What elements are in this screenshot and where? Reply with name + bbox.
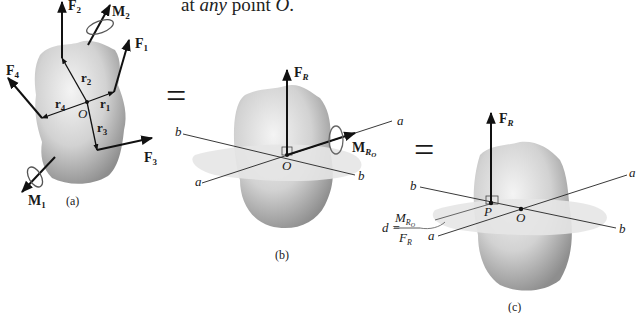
f1-label: F1	[135, 36, 149, 53]
equals-sign-2: =	[414, 130, 434, 170]
axis-a-label-b-right: a	[397, 113, 404, 128]
point-o-label-b: O	[282, 158, 292, 173]
formula-denominator: FR	[398, 230, 412, 247]
axis-b-label-b-right: b	[358, 168, 365, 183]
axis-a-label-c-right: a	[629, 165, 636, 180]
fr-label-b: FR	[294, 65, 309, 82]
axis-b-label-b-left: b	[175, 124, 182, 139]
panel-a: F1 F2 F3 F4 r1 r2 r3 r4 M2 M1 O (a)	[6, 0, 158, 210]
m1-label: M1	[28, 193, 46, 210]
axis-a-label-c-left: a	[428, 228, 435, 243]
plane-b	[192, 145, 361, 181]
f2-label: F2	[68, 0, 82, 15]
point-o-label-c: O	[516, 210, 526, 225]
fr-label-c: FR	[499, 111, 514, 128]
axis-a-label-b-left: a	[195, 174, 202, 189]
axis-b-label-c-left: b	[410, 178, 417, 193]
m2-moment-icon	[85, 5, 115, 45]
caption-a: (a)	[66, 194, 79, 208]
caption-b: (b)	[275, 248, 289, 262]
m2-label: M2	[112, 4, 130, 21]
point-o-label-a: O	[78, 106, 88, 121]
point-o-a	[85, 100, 89, 104]
caption-c: (c)	[508, 300, 521, 313]
equals-sign-1: =	[166, 76, 186, 116]
f4-label: F4	[6, 63, 20, 80]
point-o-b	[285, 153, 289, 157]
f3-label: F3	[144, 150, 158, 167]
diagram-canvas: F1 F2 F3 F4 r1 r2 r3 r4 M2 M1 O (a) = FR…	[0, 0, 638, 313]
point-p-label-c: P	[483, 204, 492, 219]
axis-b-label-c-right: b	[619, 221, 626, 236]
panel-b: FR MRO O b b a a (b)	[175, 65, 404, 262]
